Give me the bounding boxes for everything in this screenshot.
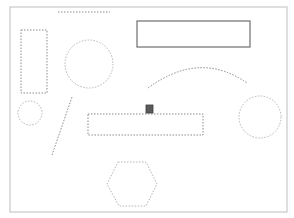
selection-handle[interactable]	[146, 105, 153, 113]
canvas-svg[interactable]	[0, 0, 294, 218]
drawing-canvas[interactable]	[0, 0, 294, 218]
